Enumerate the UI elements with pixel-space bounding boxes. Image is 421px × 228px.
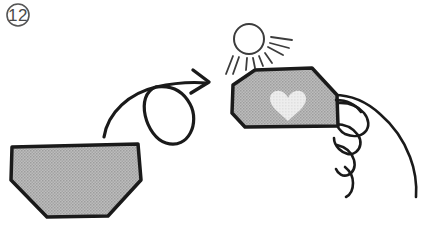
sun-disc-icon <box>234 24 264 54</box>
folded-paper-before <box>11 144 141 217</box>
hand-holding-paper <box>330 95 416 228</box>
arrow-loop-curve <box>144 87 193 144</box>
folded-paper-after <box>232 68 338 127</box>
illustration-canvas: 12 <box>0 0 421 228</box>
step-number-label: 12 <box>8 6 28 25</box>
sun-icon <box>226 24 292 74</box>
hand-silhouette <box>330 96 416 228</box>
flip-over-arrow <box>104 70 209 144</box>
step-number-badge: 12 <box>7 4 29 26</box>
step-illustration: 12 <box>0 0 421 228</box>
paper-before-body <box>11 144 141 217</box>
